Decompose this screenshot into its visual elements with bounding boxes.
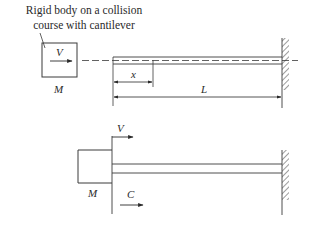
contact-label: C bbox=[127, 188, 135, 200]
velocity-label: V bbox=[117, 122, 125, 134]
bottom-figure: M V C bbox=[78, 122, 289, 215]
caption: Rigid body on a collision course with ca… bbox=[26, 4, 143, 48]
velocity-label: V bbox=[56, 46, 64, 58]
top-figure: V M x L bbox=[42, 38, 298, 108]
fixed-wall-hatch bbox=[282, 38, 289, 90]
caption-line-1: Rigid body on a collision bbox=[26, 4, 143, 17]
fixed-wall-hatch bbox=[282, 150, 289, 200]
position-label: x bbox=[130, 68, 136, 80]
length-label: L bbox=[200, 83, 207, 95]
mass-label: M bbox=[53, 83, 64, 95]
mass-label: M bbox=[87, 187, 98, 199]
collision-diagram: Rigid body on a collision course with ca… bbox=[0, 0, 310, 227]
rigid-body-box bbox=[78, 150, 112, 183]
caption-line-2: course with cantilever bbox=[33, 19, 135, 31]
